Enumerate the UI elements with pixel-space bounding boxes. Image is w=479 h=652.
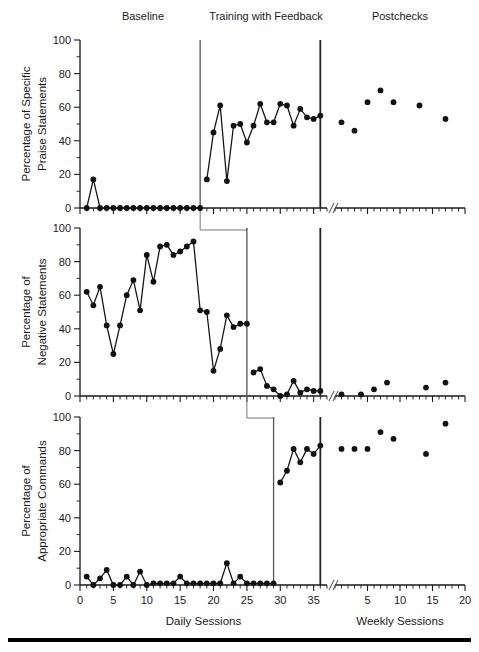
data-point — [251, 123, 257, 129]
multi-panel-line-chart: BaselineTraining with FeedbackPostchecks… — [0, 0, 479, 652]
panel-2: 020406080100Percentage ofNegative Statem… — [20, 222, 465, 418]
x-tick-label-weekly-15: 15 — [426, 594, 438, 606]
data-point — [211, 368, 217, 374]
data-point — [137, 307, 143, 313]
data-point — [197, 307, 203, 313]
x-tick-label-daily-35: 35 — [308, 594, 320, 606]
data-point — [317, 113, 323, 119]
y-tick-label-60: 60 — [59, 289, 71, 301]
data-point — [217, 103, 223, 109]
data-point — [291, 378, 297, 384]
data-point — [171, 580, 177, 586]
data-point — [297, 106, 303, 112]
data-point — [371, 386, 377, 392]
x-tick-label-daily-0: 0 — [77, 594, 83, 606]
data-point — [291, 446, 297, 452]
data-point — [164, 580, 170, 586]
data-point — [291, 123, 297, 129]
y-axis-title-line2: Appropriate Commands — [36, 440, 48, 562]
data-point — [131, 582, 137, 588]
panel-3: 020406080100Percentage ofAppropriate Com… — [20, 411, 465, 591]
data-point — [257, 366, 263, 372]
data-point — [231, 324, 237, 330]
data-point — [297, 390, 303, 396]
data-point — [131, 277, 137, 283]
data-point — [244, 580, 250, 586]
data-point — [237, 121, 243, 127]
data-point — [257, 580, 263, 586]
data-point — [311, 116, 317, 122]
data-point — [117, 323, 123, 329]
y-tick-label-60: 60 — [59, 101, 71, 113]
data-point — [317, 388, 323, 394]
data-point — [339, 119, 345, 125]
data-point — [443, 380, 449, 386]
data-point — [151, 205, 157, 211]
data-point — [423, 451, 429, 457]
y-tick-label-80: 80 — [59, 256, 71, 268]
data-point — [124, 205, 130, 211]
data-point — [311, 451, 317, 457]
data-point — [90, 302, 96, 308]
data-point — [237, 321, 243, 327]
data-point — [231, 580, 237, 586]
data-point — [417, 103, 423, 109]
data-point — [151, 279, 157, 285]
data-point — [157, 244, 163, 250]
data-point — [97, 284, 103, 290]
data-point — [144, 252, 150, 258]
y-tick-label-40: 40 — [59, 323, 71, 335]
x-axis-title-weekly: Weekly Sessions — [356, 615, 444, 627]
data-point — [84, 289, 90, 295]
data-point — [284, 391, 290, 397]
data-point — [311, 388, 317, 394]
data-point — [244, 140, 250, 146]
data-point — [443, 421, 449, 427]
data-point — [211, 130, 217, 136]
y-axis-title-line2: Negative Statements — [36, 258, 48, 365]
data-point — [443, 116, 449, 122]
y-tick-label-60: 60 — [59, 478, 71, 490]
data-point — [110, 582, 116, 588]
data-point — [177, 574, 183, 580]
data-point — [284, 468, 290, 474]
phase-label-1: Training with Feedback — [209, 10, 323, 22]
data-point — [177, 249, 183, 255]
data-point — [378, 429, 384, 435]
data-point — [378, 88, 384, 94]
data-point — [304, 114, 310, 120]
data-point — [339, 446, 345, 452]
data-point — [171, 205, 177, 211]
phase-label-0: Baseline — [122, 10, 164, 22]
data-point — [144, 582, 150, 588]
x-tick-label-weekly-5: 5 — [364, 594, 370, 606]
data-point — [384, 380, 390, 386]
data-point — [97, 575, 103, 581]
y-axis-title-line1: Percentage of Specific — [20, 66, 32, 181]
y-tick-label-40: 40 — [59, 512, 71, 524]
data-point — [277, 393, 283, 399]
data-point — [157, 205, 163, 211]
data-point — [271, 119, 277, 125]
data-point — [104, 323, 110, 329]
y-tick-label-80: 80 — [59, 445, 71, 457]
data-point — [137, 569, 143, 575]
y-tick-label-100: 100 — [53, 411, 71, 423]
data-point — [104, 567, 110, 573]
data-point — [204, 177, 210, 183]
y-axis-title-line2: Praise Statements — [36, 77, 48, 171]
x-tick-label-daily-25: 25 — [241, 594, 253, 606]
data-point — [131, 205, 137, 211]
data-point — [84, 205, 90, 211]
x-tick-label-weekly-20: 20 — [459, 594, 471, 606]
data-point — [211, 580, 217, 586]
data-point — [110, 351, 116, 357]
data-point — [217, 346, 223, 352]
data-point — [184, 580, 190, 586]
data-point — [191, 580, 197, 586]
figure-container: BaselineTraining with FeedbackPostchecks… — [0, 0, 479, 652]
data-point — [304, 446, 310, 452]
data-point — [339, 391, 345, 397]
data-point — [97, 205, 103, 211]
data-point — [264, 119, 270, 125]
